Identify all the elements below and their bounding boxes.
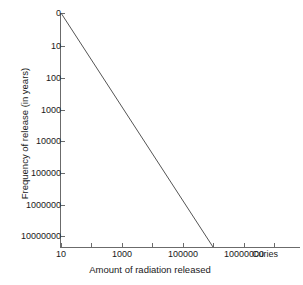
plot-area xyxy=(0,0,303,285)
data-series-line xyxy=(61,13,213,247)
chart-container: 0 10 100 1000 10000 100000 1000000 10000… xyxy=(0,0,303,285)
